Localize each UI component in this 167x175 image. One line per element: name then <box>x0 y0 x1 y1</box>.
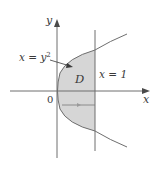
curve-label-exponent: 2 <box>46 51 50 59</box>
curve-label: x = y2 <box>19 51 51 63</box>
line-label: x = 1 <box>99 68 127 80</box>
y-axis-arrow-icon <box>54 19 60 27</box>
x-axis-label: x <box>143 93 150 106</box>
diagram-canvas: y x 0 x = y2 D x = 1 <box>0 0 167 175</box>
region-label: D <box>74 72 84 86</box>
origin-label: 0 <box>47 94 53 105</box>
y-axis-label: y <box>45 14 53 27</box>
